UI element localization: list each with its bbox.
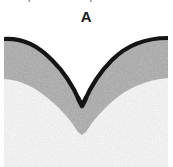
cropped-text-fragment-right: T [88,0,94,7]
cropped-text-fragment-left: l [28,0,31,7]
cropped-text-remnants: l T [0,0,173,7]
micrograph-image [4,34,168,167]
micrograph-svg [4,34,168,167]
panel-label: A [0,8,173,25]
figure-panel: l T A [0,0,173,167]
